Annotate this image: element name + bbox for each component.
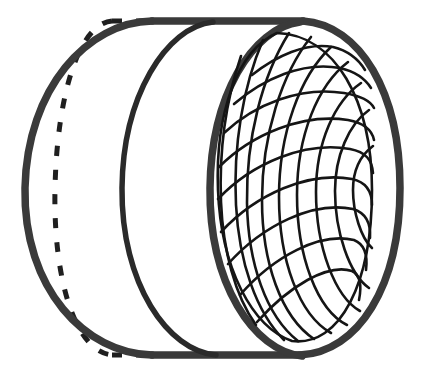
cylinder-sphere-diagram: Sphere inscribed in a cylinder Line draw…: [0, 0, 424, 374]
figure-canvas: Sphere inscribed in a cylinder Line draw…: [0, 0, 424, 374]
